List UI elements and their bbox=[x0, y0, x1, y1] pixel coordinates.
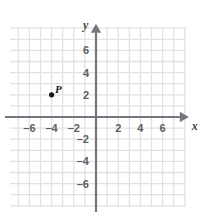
y-tick-label: –2 bbox=[77, 134, 89, 145]
x-tick-label: 4 bbox=[137, 123, 143, 134]
x-tick-label: 2 bbox=[115, 123, 121, 134]
plotted-points bbox=[49, 92, 54, 97]
y-tick-label: –4 bbox=[77, 156, 89, 167]
point-label-p: P bbox=[55, 84, 62, 95]
x-tick-label: 6 bbox=[160, 123, 166, 134]
x-axis-label: x bbox=[192, 120, 198, 132]
x-tick-label: –6 bbox=[23, 123, 35, 134]
x-tick-label: –4 bbox=[45, 123, 57, 134]
y-axis-label: y bbox=[83, 19, 88, 31]
y-tick-label: 6 bbox=[83, 45, 89, 56]
coordinate-plane-figure: –6–4–2246 642–2–4–6 x y P bbox=[0, 0, 206, 213]
y-tick-label: 2 bbox=[83, 89, 89, 100]
coordinate-plane-canvas bbox=[0, 0, 206, 213]
y-tick-label: –6 bbox=[77, 178, 89, 189]
plotted-point bbox=[49, 92, 54, 97]
y-tick-label: 4 bbox=[83, 67, 89, 78]
